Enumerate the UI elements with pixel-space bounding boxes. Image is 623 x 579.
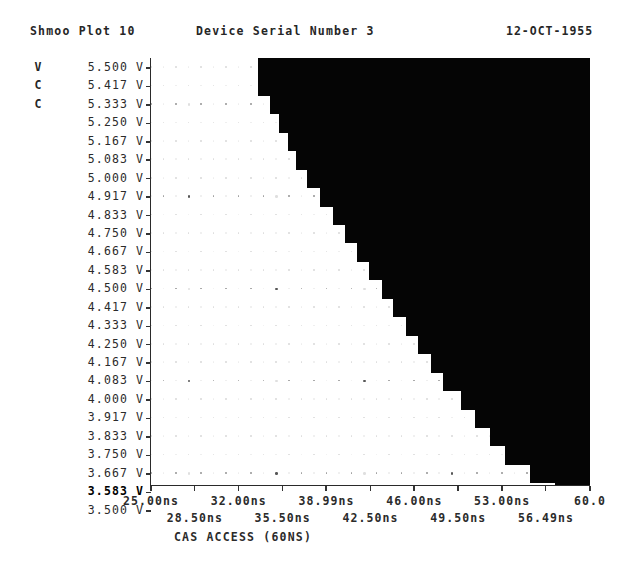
fail-region-row [258,58,590,77]
shmoo-plot-canvas[interactable] [151,58,590,485]
fail-region-row [345,224,590,243]
x-axis-tick-label: 38.99ns [298,494,354,508]
y-axis-tick-label: 4.417 V [62,298,144,316]
y-axis-tick-label: 5.167 V [62,132,144,150]
y-axis-tick-label: 3.833 V [62,427,144,445]
x-axis-tick-label: 49.50ns [430,511,486,525]
x-axis-tick-label: 42.50ns [342,511,398,525]
y-axis-tick-label: 5.083 V [62,150,144,168]
y-axis-label-column: 5.500 V5.417 V5.333 V5.250 V5.167 V5.083… [62,58,144,519]
date-label: 12-OCT-1955 [506,24,593,38]
y-axis-tick-label: 4.250 V [62,335,144,353]
x-axis-tick [413,486,415,491]
flag-1: C [30,76,46,94]
fail-region-row [288,132,590,151]
x-axis-tick [238,486,240,491]
y-axis-tick-label: 4.333 V [62,316,144,334]
fail-region-row [270,95,590,114]
y-axis-tick-label: 5.417 V [62,76,144,94]
x-axis-tick-label: 53.00ns [474,494,530,508]
x-axis-tick [501,486,503,491]
x-axis-tick-label: 56.49ns [518,511,574,525]
fail-region-row [333,206,590,225]
x-axis-caption: CAS ACCESS (60NS) [174,530,312,544]
y-axis-tick-label: 4.917 V [62,187,144,205]
y-axis-tick-label: 4.750 V [62,224,144,242]
x-axis-tick-label: 32.00ns [211,494,267,508]
fail-region [151,58,590,485]
x-axis-tick [325,486,327,491]
y-axis-tick-label: 3.750 V [62,445,144,463]
y-axis-tick-label: 3.917 V [62,408,144,426]
fail-region-row [461,390,590,409]
flag-column: VCC [30,58,46,113]
fail-region-row [357,243,590,262]
y-axis-tick-label: 4.583 V [62,261,144,279]
x-axis-labels-lower: 28.50ns35.50ns42.50ns49.50ns56.49ns [0,511,623,527]
fail-region-row [530,464,590,483]
y-axis-tick [146,492,151,494]
y-axis-tick-label: 4.167 V [62,353,144,371]
page-title: Shmoo Plot 10 [30,24,136,38]
fail-region-row [555,482,590,485]
x-axis-tick [150,486,152,491]
x-axis-tick [194,486,196,491]
flag-2: C [30,95,46,113]
y-axis-tick-label: 4.000 V [62,390,144,408]
y-axis-tick-label: 5.333 V [62,95,144,113]
fail-region-row [307,169,590,188]
y-axis-tick-label: 4.500 V [62,279,144,297]
y-axis-tick-label: 4.833 V [62,206,144,224]
x-axis-tick-label: 35.50ns [255,511,311,525]
x-axis-tick [370,486,372,491]
fail-region-row [258,76,590,95]
fail-region-row [382,279,590,298]
y-axis-tick-label: 5.250 V [62,113,144,131]
x-axis-tick-label: 25.00ns [123,494,179,508]
fail-region-row [431,353,590,372]
x-axis-tick [282,486,284,491]
device-serial-label: Device Serial Number 3 [196,24,375,38]
fail-region-row [320,187,590,206]
y-axis-tick-label: 4.667 V [62,242,144,260]
x-axis-tick [545,486,547,491]
y-axis-tick-label: 5.500 V [62,58,144,76]
fail-region-row [443,372,590,391]
x-axis-tick [457,486,459,491]
fail-region-row [279,113,590,132]
x-axis-labels-upper: 25.00ns32.00ns38.99ns46.00ns53.00ns60.0 [0,494,623,510]
fail-region-row [369,261,590,280]
y-axis-tick-label: 4.083 V [62,371,144,389]
x-axis-tick-label: 60.0 [574,494,606,508]
y-axis-tick-label: 3.667 V [62,464,144,482]
fail-region-row [296,150,590,169]
x-axis-tick-label: 46.00ns [386,494,442,508]
fail-region-row [475,409,590,428]
y-axis-tick-label: 5.000 V [62,169,144,187]
x-axis-tick-label: 28.50ns [167,511,223,525]
fail-region-row [505,445,590,464]
fail-region-row [406,316,590,335]
fail-region-row [490,427,590,446]
x-axis-tick [589,486,591,491]
flag-0: V [30,58,46,76]
fail-region-row [418,335,590,354]
fail-region-row [393,298,590,317]
shmoo-plot-page: Shmoo Plot 10 Device Serial Number 3 12-… [0,0,623,579]
